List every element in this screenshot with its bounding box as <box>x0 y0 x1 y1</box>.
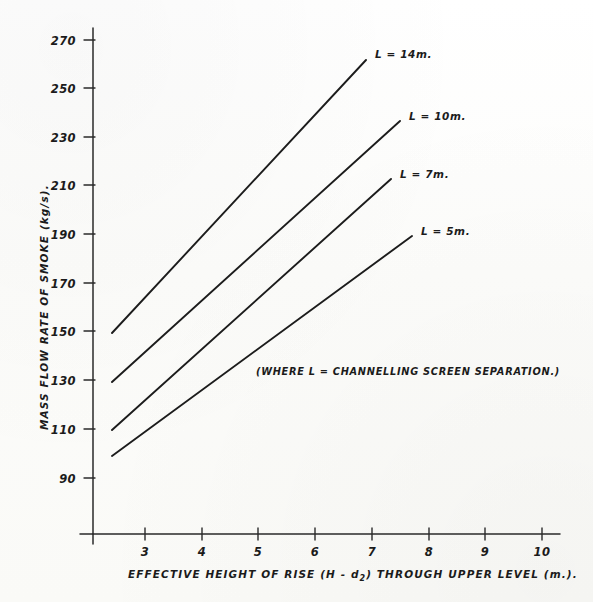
y-tick-label-150: 150 <box>51 325 76 339</box>
x-tick-label-10: 10 <box>534 545 551 559</box>
series-label-L7m: L = 7m. <box>400 168 449 180</box>
x-tick-label-3: 3 <box>141 545 149 559</box>
legend-note: (WHERE L = CHANNELLING SCREEN SEPARATION… <box>256 366 560 377</box>
y-tick-label-270: 270 <box>51 34 76 48</box>
x-axis-title-group: EFFECTIVE HEIGHT OF RISE (H - d2) THROUG… <box>128 568 578 583</box>
series-label-group: L = 14m. L = 10m. L = 7m. L = 5m. <box>375 48 470 237</box>
x-axis-title-subscript: 2 <box>360 574 367 583</box>
y-tick-label-110: 110 <box>51 423 76 437</box>
series-line-L5m <box>112 236 412 456</box>
x-tick-label-9: 9 <box>481 545 489 559</box>
y-tick-label-group: 270 250 230 210 190 170 150 130 110 90 <box>51 34 76 486</box>
series-line-L14m <box>112 60 366 333</box>
y-tick-label-90: 90 <box>59 472 76 486</box>
y-axis-title-group: MASS FLOW RATE OF SMOKE (kg/s). <box>38 184 50 430</box>
x-tick-label-6: 6 <box>311 545 319 559</box>
x-axis-title: EFFECTIVE HEIGHT OF RISE (H - d2) THROUG… <box>128 568 578 583</box>
x-tick-label-4: 4 <box>197 545 206 559</box>
x-tick-label-8: 8 <box>425 545 433 559</box>
x-tick-label-7: 7 <box>368 545 376 559</box>
x-axis-title-tail: ) THROUGH UPPER LEVEL (m.). <box>365 568 578 580</box>
y-tick-label-250: 250 <box>51 82 76 96</box>
legend-note-group: (WHERE L = CHANNELLING SCREEN SEPARATION… <box>256 366 560 377</box>
series-label-L5m: L = 5m. <box>421 225 470 237</box>
y-tick-label-130: 130 <box>51 374 76 388</box>
chart-page: 270 250 230 210 190 170 150 130 110 90 3… <box>0 0 593 602</box>
x-tick-label-5: 5 <box>254 545 262 559</box>
x-tick-label-group: 3 4 5 6 7 8 9 10 <box>141 545 551 559</box>
y-axis-title: MASS FLOW RATE OF SMOKE (kg/s). <box>38 184 50 430</box>
data-series-group <box>112 60 412 456</box>
smoke-mass-flow-chart: 270 250 230 210 190 170 150 130 110 90 3… <box>0 0 593 602</box>
x-axis-title-main: EFFECTIVE HEIGHT OF RISE (H - d <box>128 568 360 580</box>
series-line-L7m <box>112 179 391 430</box>
axis-group <box>80 28 560 544</box>
y-tick-label-170: 170 <box>51 277 76 291</box>
series-label-L14m: L = 14m. <box>375 48 432 60</box>
series-label-L10m: L = 10m. <box>409 110 466 122</box>
y-tick-label-210: 210 <box>51 179 76 193</box>
series-line-L10m <box>112 121 400 382</box>
y-tick-label-190: 190 <box>51 228 76 242</box>
y-tick-label-230: 230 <box>51 131 76 145</box>
